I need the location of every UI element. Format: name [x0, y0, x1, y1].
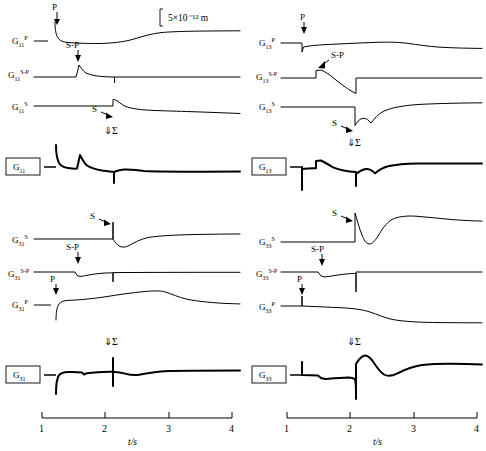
trace-G33-P: G33P — [259, 296, 482, 323]
marker-P-label: P — [52, 2, 57, 12]
trace-G11-P: G11P — [12, 22, 240, 48]
arrow-down-icon — [299, 288, 305, 295]
marker-S-G13: S — [332, 118, 353, 133]
trace-label-G11-SP: G11S-P — [8, 69, 30, 82]
arrow-right-icon — [346, 127, 353, 134]
marker-P-G13: P — [300, 12, 307, 34]
marker-S-G33: S — [332, 208, 353, 223]
scale-bar-label: 5×10⁻¹² m — [168, 13, 209, 23]
arrow-left-icon — [318, 61, 325, 69]
marker-sum-G33: ⇓Σ — [347, 336, 361, 347]
trace-G31-SP: G31S-P — [8, 268, 240, 283]
axis-tick-label-4: 4 — [229, 423, 234, 434]
marker-P-label: P — [297, 274, 302, 284]
marker-S-label: S — [90, 211, 95, 221]
scale-bar-bracket-icon — [160, 9, 163, 26]
arrow-down-icon — [301, 27, 307, 34]
boxed-label-G33: G33 — [252, 366, 302, 383]
trace-label-G11-S: G11S — [12, 101, 28, 114]
marker-SP-label: S-P — [66, 40, 79, 50]
trace-G13-S: G13S — [259, 101, 482, 126]
marker-P-label: P — [50, 274, 55, 284]
arrow-down-icon — [319, 259, 325, 266]
trace-label-G33-SP: G33S-P — [256, 268, 278, 281]
trace-label-G33-P: G33P — [259, 301, 276, 314]
trace-G13-sum — [302, 161, 482, 191]
axis-label-right: t/s — [373, 437, 382, 447]
axis-tick-label-2: 2 — [102, 423, 107, 434]
axis-tick-label-3: 3 — [411, 423, 416, 434]
trace-label-G13-SP: G13S-P — [256, 71, 278, 84]
trace-G11-S: G11S — [12, 100, 240, 114]
panel-G31: S G31S S-P G31S-P P — [6, 211, 240, 394]
trace-label-G13-S: G13S — [259, 101, 275, 114]
arrow-right-icon — [104, 220, 111, 227]
axis-tick-label-1: 1 — [39, 423, 44, 434]
axis-tick-label-3: 3 — [166, 423, 171, 434]
marker-sum-G11: ⇓Σ — [104, 125, 118, 136]
arrow-right-icon — [106, 113, 113, 120]
axis-label-left: t/s — [128, 437, 137, 447]
marker-P-G31: P — [50, 274, 59, 295]
trace-G31-sum — [56, 358, 240, 394]
arrow-right-icon — [346, 217, 353, 224]
marker-S-label: S — [92, 104, 97, 114]
axis-right: 1 2 3 4 t/s — [284, 412, 479, 447]
trace-G31-S: G31S — [12, 222, 240, 247]
panel-G33: S G33S S-P G33S-P P — [252, 208, 482, 399]
trace-label-G11-P: G11P — [12, 35, 28, 48]
axis-left: 1 2 3 4 t/s — [39, 412, 234, 447]
marker-S-label: S — [332, 118, 337, 128]
boxed-label-G31: G31 — [6, 366, 56, 383]
arrow-down-icon — [75, 257, 81, 264]
trace-G13-SP: G13S-P — [256, 70, 482, 94]
scale-bar-group: 5×10⁻¹² m — [160, 9, 209, 26]
marker-sum-G31: ⇓Σ — [104, 336, 118, 347]
boxed-label-G13: G13 — [252, 158, 302, 175]
marker-sum-G13: ⇓Σ — [347, 137, 361, 148]
marker-SP-G33: S-P — [311, 244, 325, 266]
arrow-down-icon — [53, 288, 59, 295]
marker-SP-label: S-P — [66, 242, 79, 252]
seismogram-figure: 5×10⁻¹² m P G11P S-P G11S-P — [0, 0, 486, 451]
boxed-label-G11: G11 — [6, 158, 56, 175]
marker-S-G31: S — [90, 211, 111, 226]
trace-G11-SP: G11S-P — [8, 65, 240, 83]
trace-G33-SP: G33S-P — [256, 268, 482, 293]
marker-P-G33: P — [297, 274, 305, 295]
arrow-down-icon — [75, 55, 81, 62]
boxed-label-G11-text: G11 — [13, 162, 25, 174]
marker-SP-label: S-P — [311, 244, 324, 254]
marker-SP-G31: S-P — [66, 242, 81, 264]
marker-P-G11: P — [52, 2, 60, 25]
axis-tick-label-2: 2 — [347, 423, 352, 434]
marker-P-label: P — [300, 12, 305, 22]
trace-G31-P: G31P — [12, 291, 240, 320]
trace-label-G31-SP: G31S-P — [8, 268, 30, 281]
trace-label-G31-P: G31P — [12, 299, 29, 312]
trace-G33-sum — [302, 356, 482, 399]
panel-G11: P G11P S-P G11S-P G11S — [6, 2, 240, 183]
marker-SP-label: S-P — [331, 50, 344, 60]
marker-SP-G13: S-P — [318, 50, 344, 69]
boxed-label-G33-text: G33 — [259, 370, 272, 382]
boxed-label-G31-text: G31 — [13, 370, 26, 382]
marker-S-label: S — [332, 208, 337, 218]
boxed-label-G13-text: G13 — [259, 162, 272, 174]
trace-G11-sum — [56, 145, 240, 183]
trace-label-G31-S: G31S — [12, 234, 28, 247]
panel-G13: P G13P S-P G13S-P G13S — [252, 12, 482, 190]
trace-label-G13-P: G13P — [259, 37, 276, 50]
trace-G13-P: G13P — [259, 37, 482, 53]
trace-label-G33-S: G33S — [259, 236, 275, 249]
trace-G33-S: G33S — [259, 213, 482, 249]
marker-SP-G11: S-P — [66, 40, 81, 62]
axis-tick-label-1: 1 — [284, 423, 289, 434]
axis-tick-label-4: 4 — [474, 423, 479, 434]
